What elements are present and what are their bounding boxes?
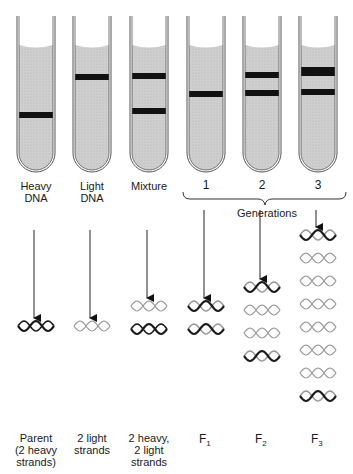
dna-helix-heavy-heavy (131, 324, 167, 334)
liquid (245, 45, 279, 170)
centrifuge-tubes (17, 16, 337, 172)
dna-band (245, 72, 279, 78)
tube-light (73, 16, 111, 172)
dna-helix-light-light (244, 328, 280, 338)
tube-label-mixture: Mixture (119, 180, 179, 192)
liquid (132, 45, 166, 170)
tube-label-light: Light DNA (62, 180, 122, 204)
dna-helix-light-light (300, 299, 336, 309)
dna-helix-hybrid (244, 282, 280, 292)
tube-label-gen1: 1 (196, 178, 216, 192)
dna-band (132, 73, 166, 79)
dna-helix-light-light (74, 321, 110, 331)
arrows (34, 210, 316, 318)
generations-brace (183, 192, 346, 205)
tube-label-gen3: 3 (308, 178, 328, 192)
dna-band (301, 67, 335, 76)
dna-helix-light-light (300, 322, 336, 332)
liquid (19, 45, 53, 170)
dna-molecules (18, 230, 336, 401)
dna-band (132, 108, 166, 114)
dna-helix-heavy-heavy (18, 321, 54, 331)
dna-helix-hybrid (244, 351, 280, 361)
result-label-6: F3 (311, 432, 323, 448)
dna-helix-light-light (300, 253, 336, 263)
tube-label-gen2: 2 (252, 178, 272, 192)
tube-heavy (17, 16, 55, 172)
result-label-4: F1 (199, 432, 211, 448)
liquid (301, 45, 335, 170)
dna-helix-hybrid (300, 230, 336, 240)
tube-mixture (130, 16, 168, 172)
dna-helix-light-light (300, 345, 336, 355)
dna-helix-light-light (300, 368, 336, 378)
meselson-stahl-diagram (0, 0, 353, 474)
tube-gen3 (299, 16, 337, 172)
dna-band (301, 89, 335, 95)
liquid (75, 45, 109, 170)
dna-band (189, 91, 223, 97)
dna-helix-light-light (131, 301, 167, 311)
result-label-1: Parent (2 heavy strands) (6, 432, 66, 468)
dna-band (19, 112, 53, 118)
result-label-3: 2 heavy, 2 light strands (119, 432, 179, 468)
dna-band (245, 90, 279, 96)
tube-label-heavy: Heavy DNA (6, 180, 66, 204)
dna-helix-light-light (300, 276, 336, 286)
dna-helix-hybrid (300, 391, 336, 401)
result-label-5: F2 (255, 432, 267, 448)
dna-helix-hybrid (188, 301, 224, 311)
dna-helix-hybrid (188, 324, 224, 334)
liquid (189, 45, 223, 170)
tube-gen1 (187, 16, 225, 172)
dna-band (75, 74, 109, 80)
result-label-2: 2 light strands (62, 432, 122, 456)
generations-label: Generations (237, 207, 297, 219)
tube-gen2 (243, 16, 281, 172)
dna-helix-light-light (244, 305, 280, 315)
